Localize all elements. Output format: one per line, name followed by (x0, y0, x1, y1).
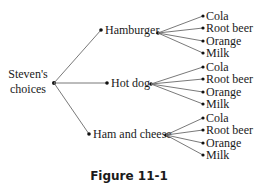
figure-caption: Figure 11-1 (90, 169, 168, 183)
hamburger-node (99, 28, 103, 32)
leaf-node (201, 26, 204, 29)
edge (151, 84, 203, 92)
leaf-label: Milk (206, 148, 229, 162)
edge (166, 135, 203, 155)
leaf-node (201, 65, 204, 68)
leaf-node (201, 77, 204, 80)
leaf-node (201, 153, 204, 156)
hotdog-node (105, 81, 109, 85)
leaf-node (201, 90, 204, 93)
edge-root-hamburger (54, 30, 101, 83)
tree-diagram-figure: Steven's choices Hamburger Cola Root bee… (0, 0, 266, 186)
leaf-node (201, 128, 204, 131)
hamandcheese-node (87, 132, 91, 136)
leaf-label: Milk (206, 46, 229, 60)
leaf-label: Root beer (206, 72, 253, 86)
edge-root-hamandcheese (54, 83, 89, 134)
leaf-node (201, 102, 204, 105)
edge (151, 84, 203, 104)
leaf-label: Milk (206, 97, 229, 111)
leaf-node (201, 51, 204, 54)
leaf-node (201, 116, 204, 119)
edge (158, 33, 203, 41)
hamburger-label: Hamburger (105, 23, 159, 37)
leaf-node (201, 141, 204, 144)
leaf-node (201, 14, 204, 17)
edge (158, 33, 203, 53)
tree-diagram: Steven's choices Hamburger Cola Root bee… (0, 0, 266, 186)
hamandcheese-label: Ham and cheese (93, 127, 172, 141)
leaf-label: Root beer (206, 123, 253, 137)
root-label-line-2: choices (10, 82, 46, 96)
leaf-node (201, 39, 204, 42)
leaf-label: Root beer (206, 21, 253, 35)
root-label-line-1: Steven's (8, 67, 48, 81)
hotdog-label: Hot dog (111, 76, 150, 90)
